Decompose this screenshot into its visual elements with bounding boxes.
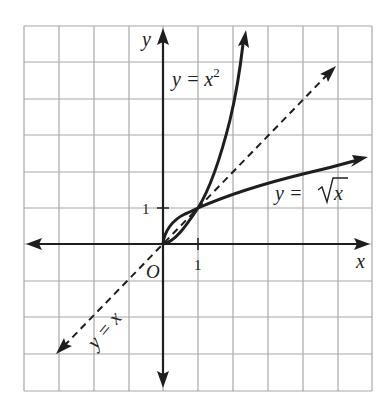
y-axis-label: y	[140, 28, 151, 51]
sqrt-label: y = x	[273, 178, 348, 205]
svg-text:y =: y =	[273, 182, 302, 205]
svg-text:x: x	[333, 182, 343, 204]
identity-label: y = x	[81, 307, 126, 355]
identity-upper-arrow-icon	[320, 66, 336, 82]
coordinate-plane-diagram: y x O 1 1 y = x2 y = x y = x	[0, 0, 390, 416]
origin-label: O	[146, 261, 160, 282]
x-axis-label: x	[355, 250, 365, 272]
radical-sign-icon	[318, 178, 348, 202]
parabola-label: y = x2	[170, 65, 220, 91]
x-tick-label: 1	[194, 257, 202, 273]
y-tick-label: 1	[142, 201, 150, 217]
